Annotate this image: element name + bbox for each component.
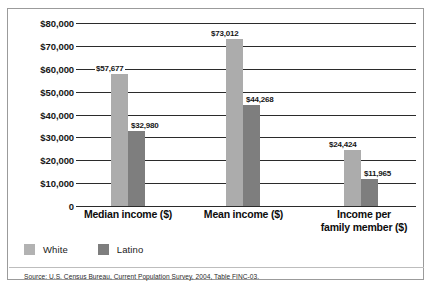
- chart-screenshot: $80,000 $70,000 $60,000 $50,000 $40,000 …: [0, 0, 431, 287]
- legend-label-latino: Latino: [117, 244, 143, 255]
- y-axis-labels: $80,000 $70,000 $60,000 $50,000 $40,000 …: [16, 23, 74, 206]
- bar-white-median-income[interactable]: [111, 74, 128, 206]
- legend-label-white: White: [43, 244, 68, 255]
- x-axis-label-median-income: Median income ($): [68, 208, 188, 221]
- bar-value-latino-median-income: $32,980: [130, 121, 160, 130]
- legend-item-white[interactable]: White: [24, 244, 68, 255]
- plot-area: $80,000 $70,000 $60,000 $50,000 $40,000 …: [8, 9, 423, 279]
- y-axis-tick-80000: $80,000: [40, 18, 74, 29]
- x-axis-label-mean-income-line1: Mean income ($): [186, 208, 301, 221]
- bar-value-latino-income-per-family-member: $11,965: [363, 169, 392, 178]
- y-axis-tick-20000: $20,000: [40, 155, 74, 166]
- bar-latino-median-income[interactable]: [128, 131, 145, 206]
- x-axis-label-median-income-line1: Median income ($): [68, 208, 188, 221]
- x-axis-baseline: [76, 206, 416, 207]
- legend-swatch-white-icon: [24, 244, 35, 255]
- y-axis-tick-70000: $70,000: [40, 40, 74, 51]
- y-axis-tick-50000: $50,000: [40, 86, 74, 97]
- bar-latino-mean-income[interactable]: [243, 105, 260, 206]
- y-axis-tick-30000: $30,000: [40, 132, 74, 143]
- source-divider: [9, 267, 424, 268]
- bar-group-income-per-family-member: $24,424 $11,965: [344, 23, 378, 206]
- y-axis-tick-60000: $60,000: [40, 63, 74, 74]
- bar-group-median-income: $57,677 $32,980: [111, 23, 145, 206]
- x-axis-label-income-per-family-member: Income per family member ($): [304, 208, 424, 234]
- bar-white-mean-income[interactable]: [226, 39, 243, 206]
- bar-value-latino-mean-income: $44,268: [245, 95, 275, 104]
- x-axis-label-mean-income: Mean income ($): [186, 208, 301, 221]
- bar-latino-income-per-family-member[interactable]: [361, 179, 378, 206]
- bar-white-income-per-family-member[interactable]: [344, 150, 361, 206]
- chart-legend: White Latino: [24, 244, 173, 255]
- x-axis-label-income-per-family-member-line1: Income per: [304, 208, 424, 221]
- legend-swatch-latino-icon: [98, 244, 109, 255]
- x-axis-label-income-per-family-member-line2: family member ($): [304, 221, 424, 234]
- bar-value-white-median-income: $57,677: [95, 64, 125, 73]
- bar-value-white-income-per-family-member: $24,424: [328, 140, 358, 149]
- y-axis-tick-10000: $10,000: [40, 178, 74, 189]
- bar-group-mean-income: $73,012 $44,268: [226, 23, 260, 206]
- x-axis-labels: Median income ($) Mean income ($) Income…: [76, 208, 416, 240]
- bar-value-white-mean-income: $73,012: [210, 29, 240, 38]
- source-note: Source: U.S. Census Bureau, Current Popu…: [24, 273, 259, 280]
- chart-frame: $80,000 $70,000 $60,000 $50,000 $40,000 …: [7, 8, 424, 280]
- y-axis-tick-40000: $40,000: [40, 109, 74, 120]
- bars-layer: $57,677 $32,980 $73,012 $44,268 $24,424 …: [76, 23, 416, 206]
- legend-item-latino[interactable]: Latino: [98, 244, 143, 255]
